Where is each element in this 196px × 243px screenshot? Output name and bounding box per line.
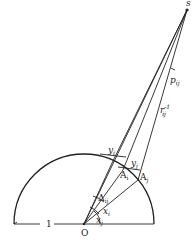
label-r-ij: r-1ij	[160, 103, 170, 118]
label-y-j: yj	[130, 158, 138, 170]
label-O: O	[81, 228, 88, 238]
label-A-i: Ai	[119, 170, 129, 181]
diagram-canvas: s O 1 Ai Aj pij r-1ij yi yj Δij xi xj	[0, 0, 196, 243]
line-s-Ai	[123, 10, 187, 170]
point-O	[83, 223, 85, 225]
label-x-j: xj	[96, 215, 103, 227]
label-s: s	[186, 0, 191, 8]
arc-p	[171, 68, 175, 70]
arc-x-i	[90, 207, 99, 214]
label-x-i: xi	[103, 206, 110, 217]
label-radius: 1	[46, 219, 52, 229]
label-y-i: yi	[107, 145, 115, 156]
point-s	[185, 8, 188, 11]
label-p-ij: pij	[170, 75, 180, 87]
